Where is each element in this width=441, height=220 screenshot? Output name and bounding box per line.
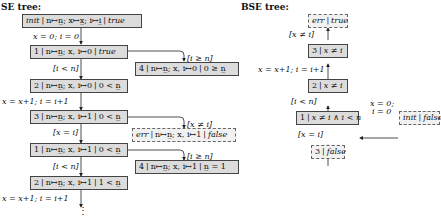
bse-node-init: init| false (399, 111, 440, 125)
se-edge-label-1b-2b: [i < n] (53, 162, 79, 172)
se-edge-label-init-1: x = 0; i = 0 (33, 32, 79, 42)
se-node-init: init| n↦n̲; x↦x̲; i↦i̲| true (22, 14, 142, 28)
bse-node-3: 3| x ≠ i (308, 44, 348, 58)
se-edge-label-2b-next: x = x+1; i = i+1 (2, 194, 69, 204)
se-node-3a: 3| n↦n̲; x, i↦1| 0 < n̲ (30, 110, 128, 124)
se-node-2a: 2| n↦n̲; x, i↦0| 0 < n̲ (30, 79, 128, 93)
se-edge-label-3-1: [x = i] (53, 128, 78, 138)
bse-edge-label-3-2: x = x+1; i = i+1 (258, 65, 325, 75)
bse-edge-label-2-1: [i < n] (291, 97, 317, 107)
se-node-1a: 1| n↦n̲; x, i↦0| true (30, 45, 128, 59)
bse-edge-label-1-init-b: i = 0 (372, 107, 391, 117)
bse-edge-label-1-3f: [x = i] (298, 130, 323, 140)
se-edge-label-2-3: x = x+1; i = i+1 (2, 97, 69, 107)
se-ellipsis: ⋮ (78, 206, 88, 216)
bse-edge-label-err-3: [x ≠ i] (289, 30, 314, 40)
bse-node-2: 2| x ≠ i (308, 79, 348, 93)
se-node-1b: 1| n↦n̲; x, i↦1| 0 < n̲ (30, 143, 128, 157)
bse-node-1: 1| x ≠ i ∧ i < n (296, 111, 359, 125)
se-edge-label-1-2: [i < n] (53, 64, 79, 74)
se-node-2b: 2| n↦n̲; x, i↦1| 1 < n̲ (30, 176, 128, 190)
se-node-4b: 4| n↦n̲; x, i↦1| n̲ = 1 (135, 160, 239, 174)
bse-node-3-false: 3| false (311, 145, 345, 159)
bse-tree-title: BSE tree: (241, 2, 289, 12)
bse-node-err: err| true (308, 14, 348, 28)
se-node-4a: 4| n↦n̲; x, i↦0| 0 ≥ n̲ (135, 62, 239, 76)
se-node-err: err| n↦n̲; x, i↦1| false (132, 128, 236, 142)
